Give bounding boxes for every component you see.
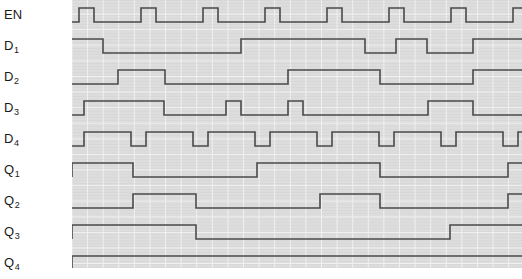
bottom-margin xyxy=(72,268,522,279)
timing-diagram: EN D1 D2 D3 D4 Q1 Q2 Q3 Q4 xyxy=(0,0,522,279)
signal-label-q4: Q4 xyxy=(4,256,68,271)
signal-label-d4-text: D xyxy=(4,131,14,146)
signal-label-q1-text: Q xyxy=(4,162,14,177)
signal-label-en-text: EN xyxy=(4,7,22,22)
signal-label-d2: D2 xyxy=(4,70,68,85)
signal-label-d4: D4 xyxy=(4,132,68,147)
waveform-trace-en xyxy=(72,8,522,22)
waveform-trace-q2 xyxy=(72,194,522,208)
signal-label-d3-text: D xyxy=(4,100,14,115)
signal-label-q3: Q3 xyxy=(4,225,68,240)
waveform-trace-q4 xyxy=(72,256,522,268)
signal-label-q1-sub: 1 xyxy=(15,169,20,179)
waveform-trace-d1 xyxy=(72,39,522,53)
signal-label-q2-sub: 2 xyxy=(15,200,20,210)
signal-label-q1: Q1 xyxy=(4,163,68,178)
waveform-trace-q1 xyxy=(72,163,522,177)
signal-label-q4-sub: 4 xyxy=(15,262,20,272)
signal-label-d3: D3 xyxy=(4,101,68,116)
signal-label-d1: D1 xyxy=(4,39,68,54)
signal-label-q4-text: Q xyxy=(4,255,14,270)
signal-label-q3-sub: 3 xyxy=(15,231,20,241)
signal-label-en: EN xyxy=(4,8,68,21)
waveform-trace-d2 xyxy=(72,70,522,84)
signal-label-q2-text: Q xyxy=(4,193,14,208)
signal-label-d1-sub: 1 xyxy=(14,45,19,55)
signal-label-d4-sub: 4 xyxy=(14,138,19,148)
signal-label-q3-text: Q xyxy=(4,224,14,239)
waveform-trace-q3 xyxy=(72,225,522,239)
waveform-trace-d3 xyxy=(72,101,522,115)
signal-label-d2-sub: 2 xyxy=(14,76,19,86)
signal-label-q2: Q2 xyxy=(4,194,68,209)
signal-label-column: EN D1 D2 D3 D4 Q1 Q2 Q3 Q4 xyxy=(0,0,72,279)
signal-label-d3-sub: 3 xyxy=(14,107,19,117)
waveform-traces xyxy=(72,0,522,268)
waveform-plot-area xyxy=(72,0,522,268)
waveform-trace-d4 xyxy=(72,132,522,146)
signal-label-d2-text: D xyxy=(4,69,14,84)
signal-label-d1-text: D xyxy=(4,38,14,53)
